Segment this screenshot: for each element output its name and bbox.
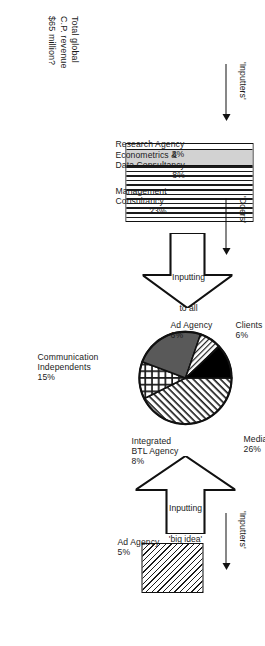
pie-label-clients: Clients 6%	[235, 320, 262, 340]
caption-line-3: $65 million?	[45, 16, 56, 69]
pie-label-comm-ind-1: Communication	[37, 352, 98, 362]
group-arrow-head-inputters-bottom	[222, 114, 230, 121]
pie-label-media-agency-value: 26%	[243, 444, 265, 454]
ad-agency-box-label-value: 5%	[117, 547, 159, 557]
pie-label-media-agency: Media Agency 26%	[243, 434, 265, 454]
pie-label-clients-value: 6%	[235, 330, 262, 340]
group-arrow-head-doers	[222, 248, 230, 255]
pie-label-ad-agency-value: 6%	[170, 330, 212, 340]
caption-line-2: C.P. revenue	[56, 16, 67, 69]
bar-label-management-value: 23%	[115, 206, 166, 216]
ad-agency-box-label: Ad Agency 5%	[117, 537, 159, 557]
group-label-doers: 'Doers'	[237, 196, 247, 223]
group-label-inputters-top: 'Inputters'	[237, 511, 247, 549]
bar-label-econometrics-name-1: Econometrics &	[115, 150, 184, 160]
doers-pie-svg	[137, 330, 233, 426]
bar-label-research-agency-name: Research Agency	[115, 139, 184, 149]
bar-label-econometrics: Econometrics & Data Consultancy 8%	[115, 150, 184, 181]
bar-label-management-name-1: Management	[115, 186, 166, 196]
pie-label-media-agency-name: Media Agency	[243, 434, 265, 444]
ad-agency-box-label-name: Ad Agency	[117, 537, 159, 547]
figure-caption: Total global C.P. revenue $65 million?	[45, 16, 79, 69]
group-label-inputters-bottom: 'Inputters'	[237, 62, 247, 100]
bar-label-management-name-2: Consultancy	[115, 196, 166, 206]
pie-label-comm-ind-value: 15%	[37, 372, 98, 382]
pie-label-comm-ind-2: Independents	[37, 362, 98, 372]
pie-label-integrated-btl-2: BTL Agency	[131, 446, 178, 456]
pie-label-clients-name: Clients	[235, 320, 262, 330]
pie-label-communication-independents: Communication Independents 15%	[37, 352, 98, 383]
doers-pie-chart	[137, 330, 233, 426]
caption-line-1: Total global	[68, 16, 79, 69]
group-arrow-line-doers	[225, 198, 226, 250]
group-arrow-line-inputters-bottom	[225, 64, 226, 116]
pie-label-ad-agency: Ad Agency 6%	[170, 320, 212, 340]
group-arrow-head-inputters-top	[222, 563, 230, 570]
group-inputters-top: 'Inputters'	[207, 511, 247, 631]
bar-label-econometrics-value: 8%	[115, 170, 184, 180]
pie-label-ad-agency-name: Ad Agency	[170, 320, 212, 330]
bar-label-management: Management Consultancy 23%	[115, 186, 166, 217]
group-arrow-line-inputters-top	[225, 513, 226, 565]
figure-canvas: Total global C.P. revenue $65 million? '…	[0, 0, 265, 646]
pie-label-integrated-btl-1: Integrated	[131, 436, 178, 446]
bar-label-econometrics-name-2: Data Consultancy	[115, 160, 184, 170]
group-doers: 'Doers'	[207, 196, 247, 316]
